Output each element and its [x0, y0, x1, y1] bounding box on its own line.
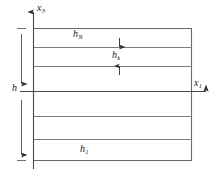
x3-axis-label: x3 — [37, 3, 45, 13]
layer-label-h-k: hk — [112, 50, 120, 60]
x1-axis-label-base: x — [194, 77, 198, 88]
figure-canvas — [0, 0, 221, 169]
x1-axis-label-subscript: 1 — [199, 82, 202, 89]
layer-label-h-1: h1 — [80, 144, 88, 154]
x3-axis-label-base: x — [37, 2, 41, 13]
layer-interfaces — [33, 48, 192, 140]
layer-label-h-1-subscript: 1 — [85, 148, 88, 155]
layer-label-h-N: hN — [73, 29, 82, 39]
layered-medium-figure: x3 x1 h hN hk h1 — [0, 0, 221, 169]
x3-axis-label-subscript: 3 — [42, 7, 45, 14]
total-thickness-dimension — [17, 29, 26, 161]
layer-label-h-k-subscript: k — [117, 54, 120, 61]
x1-axis-label: x1 — [194, 78, 202, 88]
total-thickness-label: h — [12, 83, 17, 93]
layer-label-h-N-subscript: N — [78, 33, 82, 40]
